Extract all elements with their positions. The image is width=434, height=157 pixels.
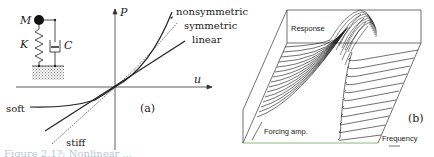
mass-spring-damper-icon: M K C: [19, 14, 73, 80]
panel-a-label: (a): [140, 102, 155, 115]
response-peak: [330, 10, 376, 65]
label-linear: linear: [192, 34, 222, 45]
x-axis-label: u: [194, 73, 201, 86]
damper-icon: [50, 20, 60, 66]
response-curves-right: [338, 50, 418, 140]
soft-curve: [30, 87, 115, 107]
y-axis-label: P: [119, 6, 128, 19]
label-nonsymmetric: nonsymmetric: [176, 6, 249, 17]
label-soft: soft: [6, 103, 25, 114]
x-axis-arrow-icon: [207, 85, 212, 89]
figure: M K C P u nonsymmetric symmetric linear: [0, 0, 434, 157]
figure-caption: Figure 2.1?: Nonlinear ...: [4, 148, 132, 157]
y-axis-arrow-icon: [113, 9, 117, 14]
mass-label: M: [19, 14, 32, 27]
spring-label: K: [19, 38, 29, 51]
ground: [32, 66, 64, 80]
axis-label-response: Response: [291, 24, 325, 33]
label-symmetric: symmetric: [184, 20, 238, 31]
response-curves-left: [257, 27, 348, 117]
label-stiff: stiff: [66, 137, 86, 148]
panel-b-label: (b): [408, 112, 424, 125]
spring-icon: [35, 25, 43, 66]
damper-label: C: [64, 39, 73, 52]
axis-label-forcing: Forcing amp.: [264, 127, 308, 136]
axis-label-frequency: Frequency: [382, 134, 418, 143]
panel-b: Response Forcing amp. Frequency (b): [243, 10, 424, 146]
nonsymmetric-curve: [115, 12, 172, 87]
panel-a: M K C P u nonsymmetric symmetric linear: [6, 6, 249, 150]
